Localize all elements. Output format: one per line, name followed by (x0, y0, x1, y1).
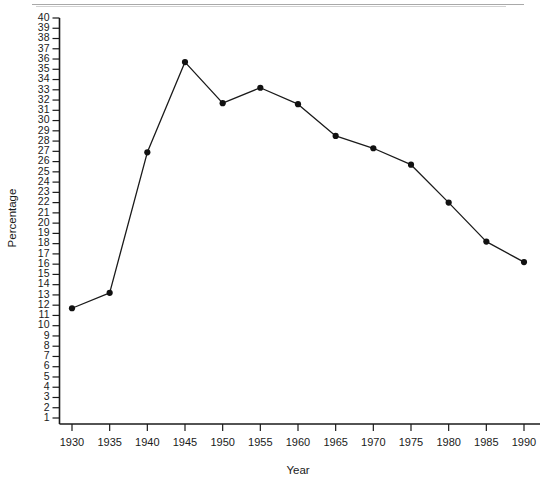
scan-artifact-line-secondary (36, 6, 506, 7)
data-point-marker (69, 305, 75, 311)
y-axis-tick-label: 20 (38, 216, 50, 228)
y-axis-tick-label: 17 (38, 247, 50, 259)
data-point-marker (144, 149, 150, 155)
y-axis-tick-label: 10 (38, 318, 50, 330)
data-point-marker (295, 101, 301, 107)
x-axis-tick-label: 1985 (474, 436, 498, 448)
y-axis-tick-label: 13 (38, 288, 50, 300)
x-axis-tick-labels: 1930193519401945195019551960196519701975… (60, 436, 536, 448)
y-axis-tick-label: 26 (38, 154, 50, 166)
y-axis-tick-label: 21 (38, 206, 50, 218)
y-axis-tick-label: 29 (38, 124, 50, 136)
y-axis-tick-label: 22 (38, 195, 50, 207)
data-point-marker (483, 238, 489, 244)
data-point-marker (408, 162, 414, 168)
y-axis-tick-label: 31 (38, 103, 50, 115)
y-axis-tick-label: 16 (38, 257, 50, 269)
y-axis-tick-label: 36 (38, 52, 50, 64)
x-axis-title: Year (286, 464, 309, 476)
y-axis-tick-label: 9 (44, 329, 50, 341)
x-axis-tick-label: 1935 (97, 436, 121, 448)
y-axis-tick-label: 30 (38, 113, 50, 125)
x-axis-tick-label: 1960 (286, 436, 310, 448)
y-axis-tick-label: 15 (38, 267, 50, 279)
x-axis-ticks (72, 424, 524, 431)
y-axis-tick-label: 38 (38, 31, 50, 43)
data-point-marker (370, 145, 376, 151)
data-point-marker (107, 290, 113, 296)
y-axis-tick-label: 1 (44, 411, 50, 423)
scan-artifact-line (32, 4, 524, 5)
x-axis-tick-label: 1980 (436, 436, 460, 448)
data-series-line (72, 62, 524, 308)
y-axis-tick-label: 35 (38, 62, 50, 74)
y-axis-tick-label: 27 (38, 144, 50, 156)
y-axis-tick-label: 40 (38, 11, 50, 23)
x-axis-tick-label: 1940 (135, 436, 159, 448)
y-axis-ticks (53, 18, 60, 418)
x-axis-tick-label: 1970 (361, 436, 385, 448)
y-axis-tick-label: 37 (38, 42, 50, 54)
y-axis-tick-label: 39 (38, 21, 50, 33)
data-point-marker (333, 133, 339, 139)
chart-canvas: 1234567891011121314151617181920212223242… (0, 0, 547, 483)
line-chart-figure: 1234567891011121314151617181920212223242… (0, 0, 547, 483)
data-point-marker (521, 259, 527, 265)
y-axis-tick-label: 7 (44, 349, 50, 361)
y-axis-tick-label: 14 (38, 277, 50, 289)
y-axis-tick-label: 18 (38, 236, 50, 248)
y-axis-tick-label: 24 (38, 175, 50, 187)
x-axis-tick-label: 1930 (60, 436, 84, 448)
y-axis-tick-label: 34 (38, 72, 50, 84)
x-axis-tick-label: 1955 (248, 436, 272, 448)
y-axis-tick-label: 28 (38, 134, 50, 146)
x-axis-tick-label: 1945 (173, 436, 197, 448)
y-axis-tick-label: 11 (39, 308, 50, 320)
y-axis-tick-label: 23 (38, 185, 50, 197)
y-axis-tick-label: 19 (38, 226, 50, 238)
data-point-marker (220, 100, 226, 106)
data-point-marker (446, 200, 452, 206)
data-point-marker (182, 59, 188, 65)
data-point-marker (257, 85, 263, 91)
x-axis-tick-label: 1975 (399, 436, 423, 448)
y-axis-tick-label: 8 (44, 339, 50, 351)
y-axis-tick-labels: 1234567891011121314151617181920212223242… (38, 11, 50, 423)
y-axis-tick-label: 3 (44, 390, 50, 402)
x-axis-tick-label: 1990 (512, 436, 536, 448)
data-point-markers (69, 59, 527, 311)
y-axis-tick-label: 25 (38, 165, 50, 177)
y-axis-tick-label: 33 (38, 83, 50, 95)
y-axis-tick-label: 2 (44, 401, 50, 413)
y-axis-tick-label: 12 (38, 298, 50, 310)
y-axis-tick-label: 32 (38, 93, 50, 105)
y-axis-title: Percentage (6, 189, 18, 248)
y-axis-tick-label: 6 (44, 359, 50, 371)
x-axis-tick-label: 1950 (210, 436, 234, 448)
y-axis-tick-label: 5 (44, 370, 50, 382)
y-axis-tick-label: 4 (44, 380, 50, 392)
x-axis-tick-label: 1965 (323, 436, 347, 448)
